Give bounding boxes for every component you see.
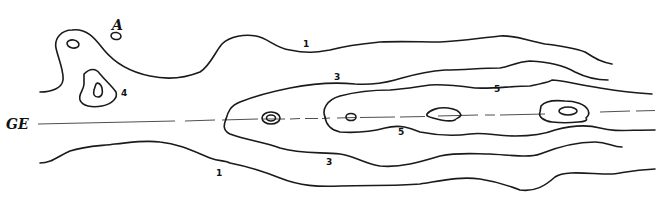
contour-small-oval-mid xyxy=(346,114,356,121)
contour-label-3-bottom: 3 xyxy=(326,158,332,167)
contour-ring-inner-1 xyxy=(267,115,276,121)
contour-blob-mid-right xyxy=(427,108,461,121)
contour-small-oval-left xyxy=(66,39,79,49)
contour-blob-right-outer xyxy=(540,101,589,123)
contour-5-bottom xyxy=(325,117,655,136)
contour-ring-outer-1 xyxy=(262,112,280,124)
axis-label-ge: GE xyxy=(6,117,29,131)
contour-3-top xyxy=(226,61,608,119)
contour-label-4: 4 xyxy=(121,89,127,98)
contour-blob-right-inner xyxy=(559,107,577,115)
contour-5-top xyxy=(324,80,652,117)
contour-label-5-top: 5 xyxy=(494,85,500,94)
contour-label-5-bottom: 5 xyxy=(398,128,404,137)
contour-label-1-bottom: 1 xyxy=(216,169,222,178)
contour-4-outer xyxy=(80,70,117,107)
contour-label-1-top: 1 xyxy=(303,40,309,49)
contour-4-inner xyxy=(94,83,103,97)
contour-3-bottom xyxy=(224,119,622,166)
contour-1-bottom xyxy=(40,141,655,190)
contour-plot xyxy=(0,0,669,201)
contour-label-3-top: 3 xyxy=(334,73,340,82)
contour-diagram: GE A 1 1 3 3 4 5 5 xyxy=(0,0,669,201)
point-label-a: A xyxy=(112,18,123,32)
